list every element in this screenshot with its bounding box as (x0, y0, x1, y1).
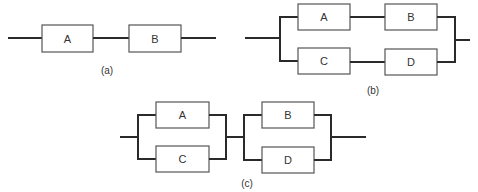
wire (280, 17, 298, 61)
wire (138, 115, 156, 159)
diagram-c: A C B D (c) (120, 102, 366, 189)
caption-c: (c) (241, 178, 253, 189)
block-label: A (320, 11, 328, 23)
wire (244, 115, 262, 160)
block-label: D (407, 56, 415, 68)
block-label: C (320, 55, 328, 67)
block-label: B (407, 11, 414, 23)
reliability-block-diagrams: A B (a) A B C D (b) A C B (0, 0, 478, 192)
block-label: A (64, 33, 72, 45)
wire (437, 17, 455, 62)
diagram-a: A B (a) (8, 25, 216, 76)
caption-a: (a) (101, 65, 113, 76)
block-label: B (284, 109, 291, 121)
wire (209, 115, 226, 159)
block-label: B (151, 33, 158, 45)
block-label: C (179, 153, 187, 165)
wire (314, 115, 331, 160)
block-label: A (179, 109, 187, 121)
diagram-b: A B C D (b) (245, 4, 470, 96)
block-label: D (284, 154, 292, 166)
caption-b: (b) (367, 85, 379, 96)
